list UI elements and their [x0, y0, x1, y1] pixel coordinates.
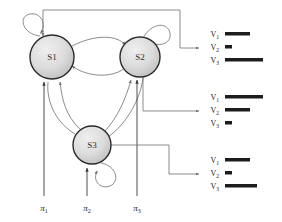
- emission-bar: [225, 121, 232, 125]
- edge-s3-to-s1: [60, 82, 80, 129]
- v-subscript: 3: [216, 60, 219, 66]
- state-node-s3[interactable]: S3: [73, 126, 111, 164]
- v-subscript: 1: [216, 160, 219, 166]
- state-node-s1[interactable]: S1: [30, 35, 74, 79]
- pi-3-subscript: 3: [138, 208, 141, 214]
- state-label-s2: S2: [135, 52, 145, 62]
- self-loop-s1: [23, 14, 43, 36]
- state-label-s3: S3: [87, 140, 97, 150]
- emission-symbol-label: V2: [210, 169, 219, 179]
- emission-bar: [225, 45, 232, 49]
- edge-s1-to-s2: [72, 37, 125, 46]
- edge-s2-to-s3: [108, 78, 143, 137]
- v-subscript: 1: [216, 97, 219, 103]
- v-subscript: 2: [216, 173, 219, 179]
- emission-symbol-label: V2: [210, 106, 219, 116]
- emission-symbol-label: V1: [210, 30, 219, 40]
- emission-symbol-label: V3: [210, 56, 219, 66]
- pi-label-1: π1: [40, 203, 48, 214]
- state-label-s1: S1: [47, 52, 57, 62]
- svg-text:π3: π3: [133, 203, 141, 214]
- self-loop-s3: [96, 163, 116, 187]
- edge-emission-2: [143, 77, 199, 111]
- emission-bar: [225, 58, 263, 62]
- emission-bar: [225, 158, 250, 162]
- v-subscript: 3: [216, 123, 219, 129]
- v-subscript: 2: [216, 47, 219, 53]
- emission-symbol-label: V1: [210, 93, 219, 103]
- emission-group-2: V1 V2 V3: [210, 93, 263, 129]
- svg-text:π2: π2: [83, 203, 91, 214]
- pi-label-2: π2: [83, 203, 91, 214]
- emission-bar: [225, 184, 257, 188]
- v-subscript: 3: [216, 186, 219, 192]
- edge-s2-to-s1: [72, 66, 126, 75]
- emission-bar: [225, 171, 232, 175]
- diagram-vector-layer: S1 S2 S3 π1 π2 π3 V: [0, 0, 282, 222]
- emission-bar: [225, 32, 250, 36]
- v-subscript: 2: [216, 110, 219, 116]
- v-subscript: 1: [216, 34, 219, 40]
- emission-bar: [225, 95, 263, 99]
- emission-symbol-label: V3: [210, 119, 219, 129]
- pi-1-subscript: 1: [45, 208, 48, 214]
- pi-2-subscript: 2: [88, 208, 91, 214]
- emission-bar: [225, 108, 250, 112]
- emission-symbol-label: V1: [210, 156, 219, 166]
- emission-symbol-label: V2: [210, 43, 219, 53]
- edge-s3-to-s2: [105, 80, 131, 131]
- emission-group-3: V1 V2 V3: [210, 156, 257, 192]
- state-node-s2[interactable]: S2: [120, 37, 160, 77]
- svg-text:π1: π1: [40, 203, 48, 214]
- emission-group-1: V1 V2 V3: [210, 30, 263, 66]
- hmm-diagram-canvas: S1 S2 S3 π1 π2 π3 V: [0, 0, 282, 222]
- emission-symbol-label: V3: [210, 182, 219, 192]
- pi-label-3: π3: [133, 203, 141, 214]
- edge-emission-3: [111, 145, 199, 174]
